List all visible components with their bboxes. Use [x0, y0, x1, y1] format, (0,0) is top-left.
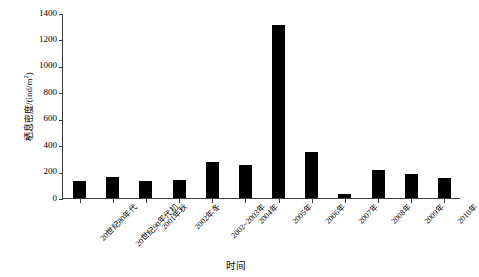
y-axis-tick-label: 800: [44, 87, 58, 97]
y-axis-tick-label: 600: [44, 113, 58, 123]
y-axis-tick-label: 0: [53, 193, 58, 203]
y-axis-tick-mark: [59, 93, 63, 94]
y-axis-title-text: 栖息密度/(ind/m: [24, 78, 34, 141]
y-axis-tick-label: 400: [44, 140, 58, 150]
x-axis-tick-label: 2009年: [421, 201, 446, 226]
x-axis-tick-labels: 20世纪80年代20世纪90年代初2001年秋2002年冬2002~2003年2…: [62, 201, 460, 261]
bar: [73, 181, 86, 198]
bar: [405, 174, 418, 198]
y-axis-tick-mark: [59, 40, 63, 41]
x-axis-tick-label: 20世纪80年代: [97, 201, 139, 243]
x-axis-title: 时间: [0, 258, 471, 272]
plot-area: 0200400600800100012001400: [62, 14, 460, 199]
y-axis-title-tail: ): [24, 72, 34, 75]
y-axis-tick-mark: [59, 199, 63, 200]
bar-series: [63, 14, 460, 198]
bar: [305, 152, 318, 198]
x-axis-tick-label: 2010年: [454, 201, 479, 226]
bar: [173, 180, 186, 198]
y-axis-tick-mark: [59, 146, 63, 147]
y-axis-tick-mark: [59, 14, 63, 15]
bar: [338, 194, 351, 198]
bar: [206, 162, 219, 198]
x-axis-tick-label: 2002年冬: [191, 201, 221, 231]
bar: [239, 165, 252, 198]
y-axis-tick-label: 1200: [39, 34, 57, 44]
y-axis-tick-label: 200: [44, 166, 58, 176]
y-axis-tick-label: 1400: [39, 8, 57, 18]
y-axis-tick-mark: [59, 67, 63, 68]
x-axis-tick-label: 2006年: [322, 201, 347, 226]
bar: [438, 178, 451, 198]
bar: [272, 25, 285, 198]
y-axis-title: 栖息密度/(ind/m2): [22, 17, 35, 197]
bar: [139, 181, 152, 198]
y-axis-title-superscript: 2: [22, 75, 29, 78]
x-axis-tick-label: 2005年: [289, 201, 314, 226]
x-axis-tick-label: 2008年: [388, 201, 413, 226]
x-axis-tick-label: 2007年: [355, 201, 380, 226]
y-axis-tick-label: 1000: [39, 60, 57, 70]
bar: [372, 170, 385, 198]
y-axis-tick-mark: [59, 173, 63, 174]
y-axis-tick-mark: [59, 120, 63, 121]
bar: [106, 177, 119, 198]
